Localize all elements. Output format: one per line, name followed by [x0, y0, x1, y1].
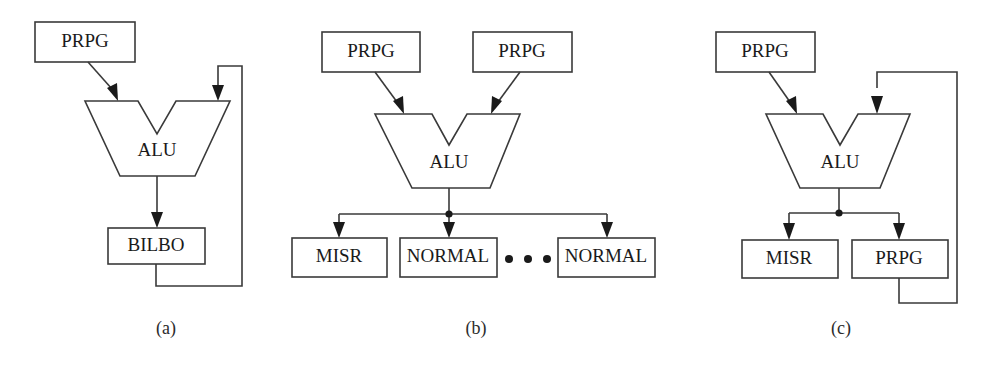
panel-c-arrowhead-prpg [893, 223, 905, 240]
panel-c-prpg-to-alu-wire [769, 72, 790, 102]
panel-c-misr-label: MISR [766, 247, 813, 268]
panel-c-prpg-top-label: PRPG [741, 40, 789, 61]
panel-b-alu-label: ALU [429, 151, 468, 172]
panel-b-prpg-left-label: PRPG [347, 40, 395, 61]
panel-a-prpg-label: PRPG [61, 30, 109, 51]
panel-b-prpg-right-to-alu-wire [498, 72, 520, 102]
panel-a-feedback-arrowhead [212, 85, 224, 101]
panel-a-caption: (a) [156, 318, 176, 339]
panel-a-alu-to-bilbo-arrowhead [151, 212, 163, 228]
panel-b-ellipsis-dot-3 [543, 255, 551, 263]
panel-b-prpg-left-to-alu-wire [375, 72, 397, 102]
panel-b-normal-first-label: NORMAL [407, 245, 489, 266]
panel-b-fanout-junction-dot [445, 210, 452, 217]
panel-b-caption: (b) [466, 318, 487, 339]
panel-c: PRPG ALU MISR PRPG (c) [680, 0, 993, 366]
panel-c-alu-label: ALU [820, 151, 859, 172]
panel-b-arrowhead-normal-first [443, 222, 455, 238]
panel-c-prpg-bottom-label: PRPG [875, 247, 923, 268]
panel-b-ellipsis-dot-1 [505, 255, 513, 263]
panel-a-prpg-to-alu-wire [88, 62, 112, 89]
panel-c-fanout-junction-dot [835, 209, 842, 216]
panel-b-misr-label: MISR [316, 245, 363, 266]
panel-a: PRPG ALU BILBO (a) [0, 0, 331, 366]
panel-b-prpg-right-label: PRPG [498, 40, 546, 61]
panel-a-alu-label: ALU [137, 139, 176, 160]
panel-b-ellipsis-dot-2 [524, 255, 532, 263]
panel-b-arrowhead-normal-last [601, 222, 613, 238]
panel-b: PRPG PRPG ALU MISR NORMAL [290, 0, 690, 366]
panel-b-normal-last-label: NORMAL [565, 245, 647, 266]
panel-a-bilbo-label: BILBO [128, 234, 185, 255]
panel-c-arrowhead-misr [783, 223, 795, 240]
panel-b-arrowhead-misr [333, 222, 345, 238]
panel-c-feedback-arrowhead [871, 96, 883, 114]
figure-canvas: PRPG ALU BILBO (a) PRPG PRPG ALU [0, 0, 993, 366]
panel-c-caption: (c) [831, 318, 851, 339]
